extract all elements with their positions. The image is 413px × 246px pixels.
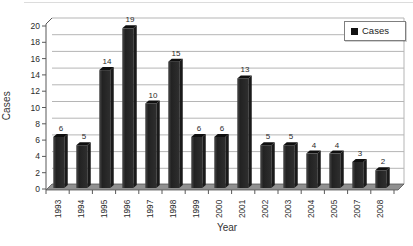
bar-side-face xyxy=(386,167,390,188)
bar-2007 xyxy=(352,162,363,188)
bar-value-label: 10 xyxy=(149,91,158,100)
x-tick-label: 2001 xyxy=(238,199,247,218)
y-tick-label: 8 xyxy=(35,119,40,129)
x-tick-label: 1995 xyxy=(100,199,109,218)
x-tick-label: 1998 xyxy=(169,199,178,218)
bar-side-face xyxy=(202,134,206,188)
bar-value-label: 5 xyxy=(82,132,87,141)
y-tick-label: 18 xyxy=(31,37,41,47)
y-axis-depth-corner xyxy=(46,18,52,24)
y-tick-label: 2 xyxy=(35,168,40,178)
bar-value-label: 6 xyxy=(220,124,225,133)
bar-side-face xyxy=(271,142,275,188)
bar-value-label: 6 xyxy=(59,124,64,133)
bar-1999 xyxy=(191,137,202,188)
top-border-line xyxy=(24,2,413,3)
bar-side-face xyxy=(294,142,298,188)
y-tick-label: 6 xyxy=(35,135,40,145)
y-tick-label: 10 xyxy=(31,103,41,113)
bar-side-face xyxy=(179,59,183,188)
bar-side-face xyxy=(363,159,367,188)
x-tick-label: 2000 xyxy=(215,199,224,218)
y-tick-label: 4 xyxy=(35,151,40,161)
bar-value-label: 14 xyxy=(103,57,112,66)
bar-value-label: 3 xyxy=(358,149,363,158)
bar-value-label: 4 xyxy=(312,141,317,150)
bar-1995 xyxy=(99,70,110,188)
bar-side-face xyxy=(87,142,91,188)
bar-1998 xyxy=(168,62,179,188)
bar-2003 xyxy=(283,145,294,188)
legend-series-marker-icon xyxy=(351,28,358,35)
bar-1997 xyxy=(145,104,156,189)
bar-side-face xyxy=(133,25,137,188)
bar-side-face xyxy=(156,101,160,189)
y-tick-label: 20 xyxy=(31,21,41,31)
legend-series-label: Cases xyxy=(362,26,389,36)
bar-value-label: 4 xyxy=(335,141,340,150)
bar-value-label: 6 xyxy=(197,124,202,133)
bar-2001 xyxy=(237,78,248,188)
bar-side-face xyxy=(225,134,229,188)
bar-side-face xyxy=(64,134,68,188)
bar-value-label: 5 xyxy=(266,132,271,141)
x-tick-label: 2008 xyxy=(376,199,385,218)
cases-by-year-bar-chart: 0246810121416182061993519941419951919961… xyxy=(0,0,413,246)
bar-1996 xyxy=(122,28,133,188)
bar-side-face xyxy=(317,151,321,188)
x-tick-label: 1997 xyxy=(146,199,155,218)
bar-value-label: 19 xyxy=(126,15,135,24)
bar-side-face xyxy=(248,75,252,188)
x-tick-label: 2007 xyxy=(353,199,362,218)
x-tick-label: 1994 xyxy=(77,199,86,218)
bar-side-face xyxy=(340,151,344,188)
y-axis-title: Cases xyxy=(1,91,12,120)
x-tick-label: 2002 xyxy=(261,199,270,218)
bar-value-label: 5 xyxy=(289,132,294,141)
bar-1993 xyxy=(53,137,64,188)
x-axis-title: Year xyxy=(187,222,267,233)
bar-1994 xyxy=(76,145,87,188)
legend: Cases xyxy=(344,21,406,41)
x-tick-label: 1996 xyxy=(123,199,132,218)
bar-2002 xyxy=(260,145,271,188)
bar-2008 xyxy=(375,170,386,188)
bar-2000 xyxy=(214,137,225,188)
x-tick-label: 2003 xyxy=(284,199,293,218)
y-tick-label: 16 xyxy=(31,54,41,64)
bar-value-label: 15 xyxy=(172,49,181,58)
bar-side-face xyxy=(110,67,114,188)
x-tick-label: 1993 xyxy=(54,199,63,218)
bar-2005 xyxy=(329,154,340,188)
y-tick-label: 12 xyxy=(31,86,41,96)
x-tick-label: 2004 xyxy=(307,199,316,218)
x-tick-label: 1999 xyxy=(192,199,201,218)
bar-value-label: 13 xyxy=(241,65,250,74)
bar-value-label: 2 xyxy=(381,157,386,166)
y-tick-label: 0 xyxy=(35,184,40,194)
x-tick-label: 2005 xyxy=(330,199,339,218)
y-tick-label: 14 xyxy=(31,70,41,80)
bar-2004 xyxy=(306,154,317,188)
